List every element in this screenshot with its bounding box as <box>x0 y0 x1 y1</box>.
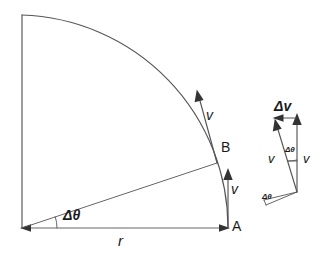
radius-line-to-b <box>22 163 217 228</box>
velocity-label-at-b: v <box>206 108 213 122</box>
delta-theta-label-vector-top: Δθ <box>285 146 295 154</box>
delta-theta-label-main: Δθ <box>63 208 80 222</box>
delta-theta-angle-arc <box>55 217 57 228</box>
velocity-vector-b-arrowhead <box>195 90 204 103</box>
radius-label: r <box>118 233 123 248</box>
delta-theta-label-vector-bottom: Δθ <box>262 193 272 201</box>
figure-canvas <box>0 0 328 259</box>
vector-v-final-arrowhead <box>292 113 301 125</box>
vector-delta-v-arrowhead <box>273 114 284 121</box>
v-initial-label: v <box>268 152 275 165</box>
delta-v-label: Δv <box>274 99 291 113</box>
circular-motion-figure: A B v v r Δθ Δv v v Δθ Δθ <box>0 0 328 259</box>
point-label-b: B <box>221 140 230 154</box>
v-final-label: v <box>303 152 310 165</box>
velocity-vector-a-arrowhead <box>223 168 232 180</box>
velocity-label-at-a: v <box>231 182 238 196</box>
circular-arc-path <box>22 15 228 228</box>
point-label-a: A <box>232 219 241 233</box>
vector-v-initial-shaft <box>278 128 298 192</box>
